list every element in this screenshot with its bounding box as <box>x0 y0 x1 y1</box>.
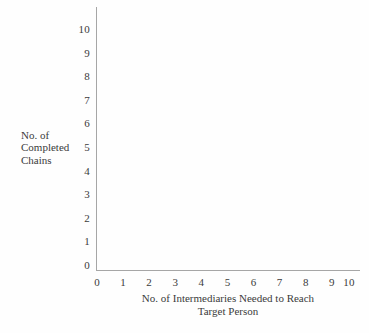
x-tick-label: 5 <box>225 277 231 288</box>
chart-figure: 0 1 2 3 4 5 6 7 8 9 10 0 1 2 3 4 5 <box>0 0 369 333</box>
y-tick-label: 6 <box>84 118 90 129</box>
y-tick-label: 1 <box>84 236 90 247</box>
x-tick-label: 10 <box>343 277 354 288</box>
y-tick-label: 9 <box>84 47 90 58</box>
y-tick-label: 7 <box>84 94 90 105</box>
x-tick-label: 0 <box>94 277 100 288</box>
y-tick-label: 4 <box>84 165 90 176</box>
x-tick-label: 8 <box>303 277 309 288</box>
y-tick-label: 2 <box>84 212 90 223</box>
plot-area <box>97 7 360 270</box>
x-tick-label: 7 <box>277 277 283 288</box>
x-tick-label: 4 <box>199 277 205 288</box>
y-tick-label: 5 <box>84 142 90 153</box>
y-tick-label: 10 <box>79 24 90 35</box>
x-axis-title: No. of Intermediaries Needed to Reach Ta… <box>96 292 360 318</box>
x-axis-line <box>96 270 360 271</box>
x-tick-label: 6 <box>251 277 257 288</box>
x-tick-label: 2 <box>146 277 152 288</box>
y-tick-label: 0 <box>84 260 90 271</box>
y-axis-title: No. of Completed Chains <box>21 129 69 166</box>
x-tick-label: 1 <box>120 277 126 288</box>
x-tick-label: 9 <box>329 277 335 288</box>
y-tick-label: 8 <box>84 71 90 82</box>
y-tick-label: 3 <box>84 189 90 200</box>
x-tick-label: 3 <box>172 277 178 288</box>
